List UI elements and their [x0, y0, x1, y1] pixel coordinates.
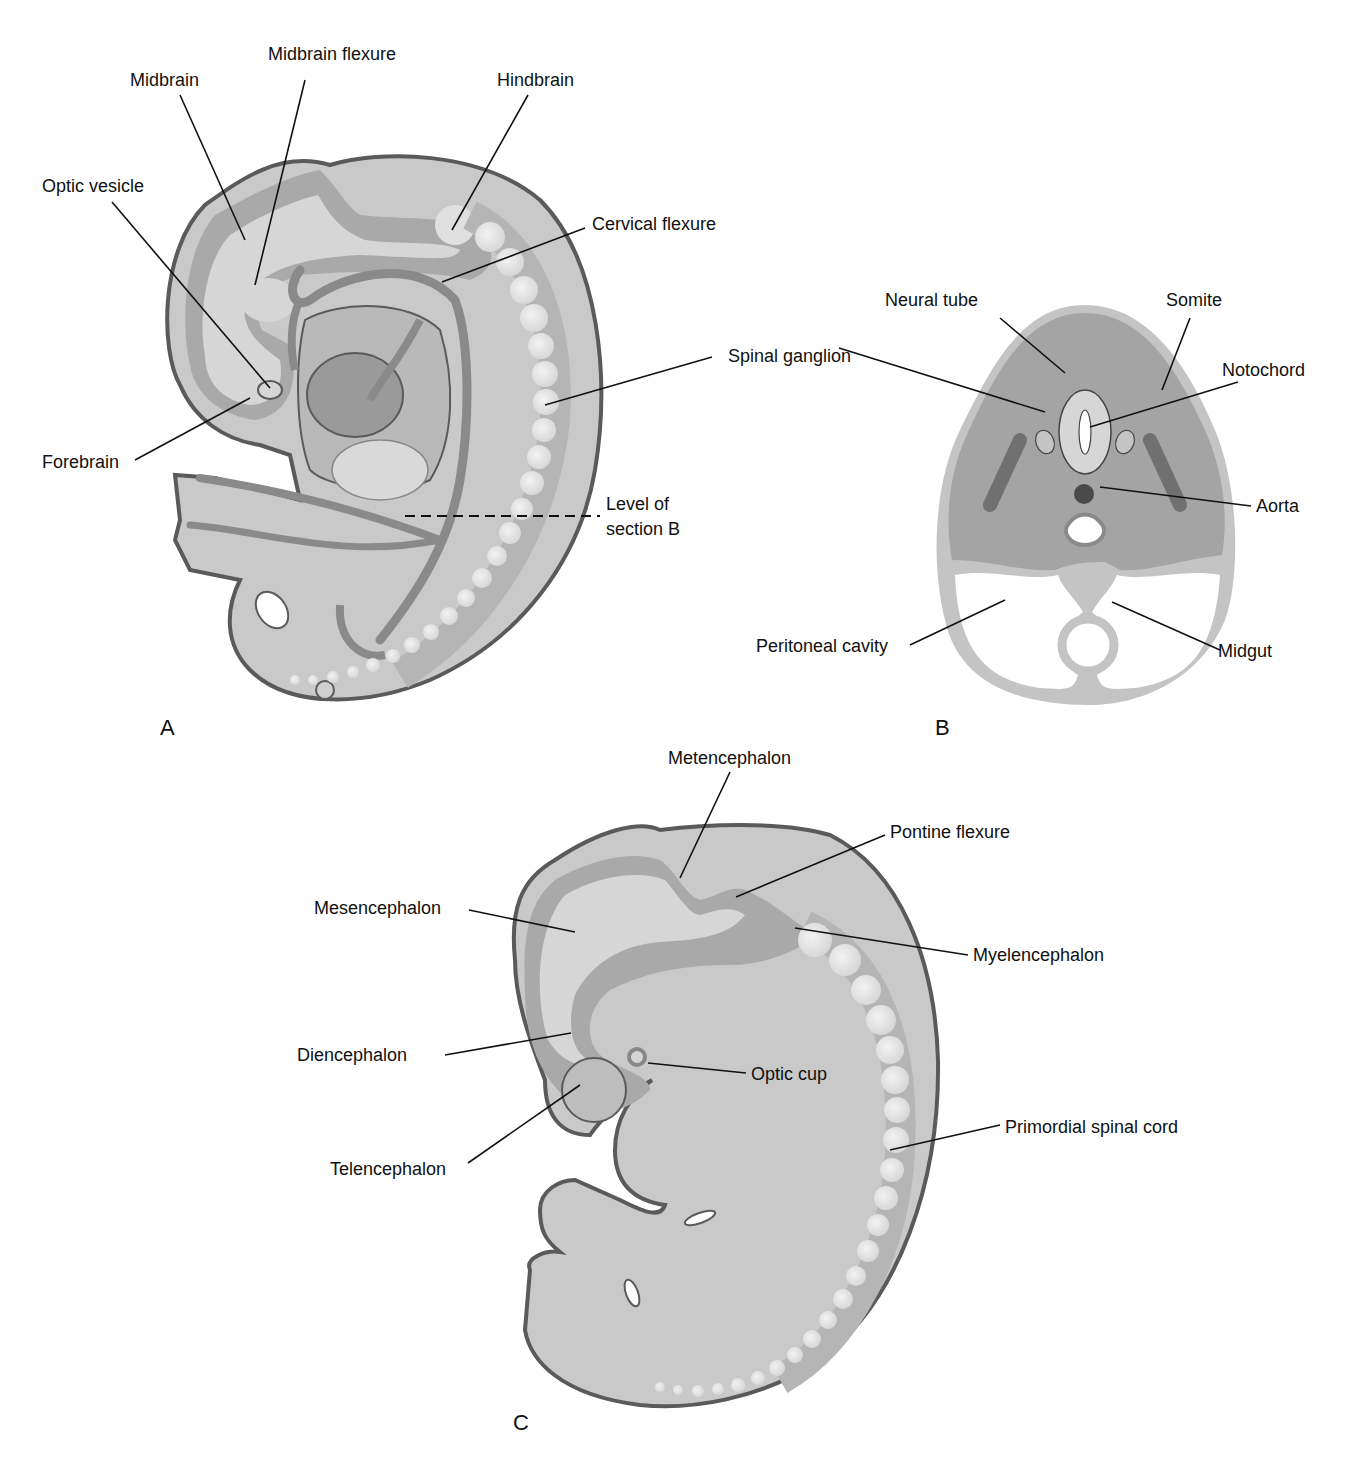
- panel-b-midgut: [1062, 619, 1114, 671]
- panel-letter-a: A: [160, 715, 175, 740]
- label-mesencephalon: Mesencephalon: [314, 898, 441, 918]
- panel-b-aorta: [1066, 515, 1104, 546]
- panel-b-neural-canal: [1079, 410, 1091, 454]
- panel-c-embryo: [514, 825, 938, 1406]
- label-hindbrain: Hindbrain: [497, 70, 574, 90]
- label-optic-vesicle: Optic vesicle: [42, 176, 144, 196]
- label-metencephalon: Metencephalon: [668, 748, 791, 768]
- panel-b-cross-section: [937, 305, 1236, 705]
- label-peritoneal-cavity: Peritoneal cavity: [756, 636, 888, 656]
- panel-c-optic-cup: [629, 1049, 645, 1065]
- label-optic-cup: Optic cup: [751, 1064, 827, 1084]
- panel-a-allantois: [316, 681, 334, 699]
- label-midgut: Midgut: [1218, 641, 1272, 661]
- panel-a-embryo: [167, 156, 601, 699]
- panel-a-liver: [332, 440, 428, 500]
- label-aorta: Aorta: [1256, 496, 1300, 516]
- panel-a-optic-vesicle: [258, 381, 282, 399]
- label-midbrain: Midbrain: [130, 70, 199, 90]
- label-diencephalon: Diencephalon: [297, 1045, 407, 1065]
- panel-a-midbrain-flexure: [240, 278, 296, 322]
- label-pontine-flexure: Pontine flexure: [890, 822, 1010, 842]
- label-spinal-ganglion: Spinal ganglion: [728, 346, 851, 366]
- label-somite: Somite: [1166, 290, 1222, 310]
- panel-letter-b: B: [935, 715, 950, 740]
- label-level-of-section-1: Level of: [606, 494, 670, 514]
- label-telencephalon: Telencephalon: [330, 1159, 446, 1179]
- embryo-figure: Midbrain Midbrain flexure Hindbrain Opti…: [0, 0, 1361, 1461]
- label-cervical-flexure: Cervical flexure: [592, 214, 716, 234]
- label-midbrain-flexure: Midbrain flexure: [268, 44, 396, 64]
- label-myelencephalon: Myelencephalon: [973, 945, 1104, 965]
- label-primordial-spinal-cord: Primordial spinal cord: [1005, 1117, 1178, 1137]
- label-neural-tube: Neural tube: [885, 290, 978, 310]
- panel-b-notochord: [1074, 484, 1094, 504]
- label-notochord: Notochord: [1222, 360, 1305, 380]
- label-level-of-section-2: section B: [606, 519, 680, 539]
- label-forebrain: Forebrain: [42, 452, 119, 472]
- panel-letter-c: C: [513, 1410, 529, 1435]
